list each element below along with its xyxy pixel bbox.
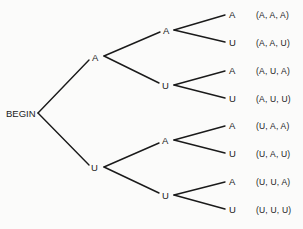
leaf-node: U — [229, 149, 236, 159]
tree-diagram: BEGIN A U A U A U A U A U A U A U (A, A,… — [0, 0, 303, 229]
tree-edges — [0, 0, 303, 229]
edge-ua-u — [174, 140, 225, 153]
outcome-label: (U, U, U) — [256, 205, 291, 215]
outcome-label: (A, U, A) — [256, 66, 290, 76]
leaf-node: A — [229, 177, 235, 187]
edge-au-a — [174, 71, 225, 85]
outcome-label: (A, A, U) — [256, 38, 290, 48]
leaf-node: U — [229, 94, 236, 104]
edge-uu-u — [174, 195, 225, 209]
edge-au-u — [174, 85, 225, 98]
edge-begin-u — [38, 113, 89, 165]
level2-node-ua: A — [162, 136, 168, 146]
edge-aa-a — [174, 15, 225, 30]
level1-node-u: U — [91, 163, 98, 173]
leaf-node: A — [229, 10, 235, 20]
level2-node-uu: U — [162, 191, 169, 201]
level1-node-a: A — [92, 53, 98, 63]
leaf-node: A — [229, 66, 235, 76]
edge-uu-a — [174, 182, 225, 195]
edge-ua-a — [174, 126, 225, 140]
edge-a-u — [104, 56, 159, 83]
root-node-label: BEGIN — [6, 109, 36, 119]
edge-u-a — [104, 143, 159, 167]
edge-a-a — [104, 32, 160, 56]
level2-node-au: U — [162, 81, 169, 91]
leaf-node: U — [229, 205, 236, 215]
outcome-label: (A, A, A) — [256, 10, 289, 20]
outcome-label: (U, A, U) — [256, 149, 290, 159]
outcome-label: (U, U, A) — [256, 177, 290, 187]
leaf-node: U — [229, 38, 236, 48]
edge-u-u — [104, 167, 159, 193]
outcome-label: (U, A, A) — [256, 121, 289, 131]
leaf-node: A — [229, 121, 235, 131]
outcome-label: (A, U, U) — [256, 94, 291, 104]
edge-aa-u — [174, 30, 225, 42]
edge-begin-a — [38, 60, 89, 113]
level2-node-aa: A — [163, 26, 169, 36]
